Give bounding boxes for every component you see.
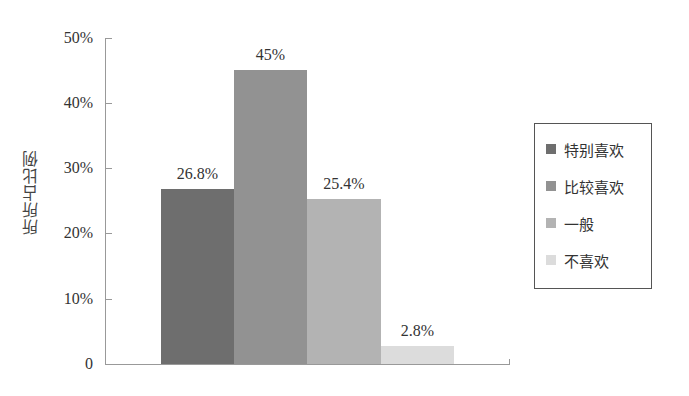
legend-label: 不喜欢 (564, 250, 609, 271)
x-axis-line (105, 364, 510, 365)
legend-item-yi-ban: 一般 (546, 213, 594, 233)
legend-item-bu-xi-huan: 不喜欢 (546, 250, 609, 270)
bar-value-label: 45% (234, 47, 307, 63)
y-tick-50: 50% (64, 30, 93, 46)
legend-label: 比较喜欢 (564, 176, 624, 197)
legend-swatch-icon (546, 218, 556, 228)
legend-item-te-bie-xi-huan: 特别喜欢 (546, 139, 624, 159)
y-tick-0: 0 (85, 356, 93, 372)
bar-bu-xi-huan (381, 346, 454, 364)
y-tick-mark-10 (106, 299, 112, 300)
legend-swatch-icon (546, 255, 556, 265)
y-tick-20: 20% (64, 225, 93, 241)
legend-item-bi-jiao-xi-huan: 比较喜欢 (546, 176, 624, 196)
bar-value-label: 25.4% (307, 176, 381, 192)
bar-value-label: 2.8% (381, 323, 454, 339)
y-axis-line (105, 38, 106, 365)
y-tick-mark-30 (106, 168, 112, 169)
y-tick-mark-20 (106, 233, 112, 234)
bar-yi-ban (307, 199, 381, 364)
legend-swatch-icon (546, 181, 556, 191)
y-axis-label: 所所占比例 (20, 150, 44, 235)
y-tick-mark-40 (106, 103, 112, 104)
y-tick-10: 10% (64, 291, 93, 307)
x-axis-end-tick (509, 359, 510, 365)
bar-value-label: 26.8% (161, 166, 234, 182)
legend-label: 一般 (564, 213, 594, 234)
bar-bi-jiao-xi-huan (234, 70, 307, 364)
bar-te-bie-xi-huan (161, 189, 234, 364)
legend-label: 特别喜欢 (564, 139, 624, 160)
legend: 特别喜欢 比较喜欢 一般 不喜欢 (534, 123, 652, 289)
y-tick-mark-50 (106, 38, 112, 39)
y-tick-40: 40% (64, 95, 93, 111)
legend-swatch-icon (546, 144, 556, 154)
y-tick-30: 30% (64, 160, 93, 176)
